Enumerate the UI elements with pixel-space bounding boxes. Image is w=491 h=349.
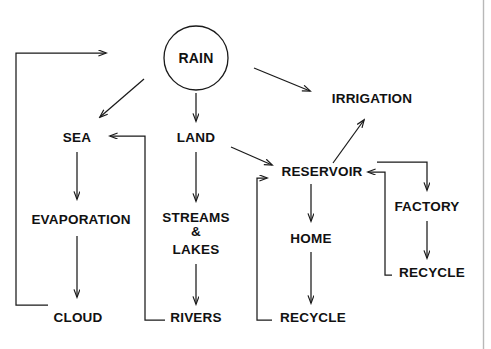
node-sea: SEA — [63, 131, 91, 145]
node-reservoir: RESERVOIR — [281, 165, 362, 179]
node-factory: FACTORY — [394, 200, 459, 214]
node-rain: RAIN — [178, 51, 213, 65]
edge-rain-to-irrigation — [254, 68, 310, 91]
node-home: HOME — [290, 232, 331, 246]
edge-rain-to-sea — [100, 79, 144, 117]
node-evaporation: EVAPORATION — [31, 213, 130, 227]
water-cycle-diagram: RAIN SEA LAND IRRIGATION EVAPORATION STR… — [0, 0, 491, 349]
node-streams-line1: STREAMS — [162, 211, 229, 225]
node-streams-line3: LAKES — [173, 243, 220, 257]
flow-connectors — [0, 0, 491, 349]
edge-cloud-to-rain — [16, 53, 106, 305]
node-rivers: RIVERS — [170, 311, 221, 325]
edge-reservoir-to-irrigation — [333, 120, 364, 163]
node-recycle-center: RECYCLE — [280, 311, 346, 325]
node-streams-ampersand: & — [191, 225, 201, 239]
edge-land-to-reservoir — [231, 147, 272, 165]
edge-recycle-center-to-reservoir — [257, 178, 272, 320]
node-land: LAND — [177, 131, 215, 145]
node-recycle-right: RECYCLE — [399, 266, 465, 280]
node-irrigation: IRRIGATION — [332, 92, 413, 106]
node-cloud: CLOUD — [54, 311, 103, 325]
edge-rivers-to-sea — [110, 136, 165, 320]
edge-recycle-right-to-reservoir — [368, 172, 392, 275]
